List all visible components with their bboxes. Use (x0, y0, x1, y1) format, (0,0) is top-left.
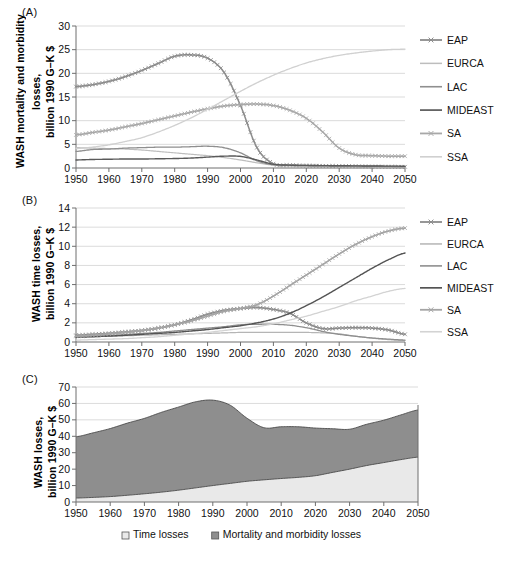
y-tick-label: 20 (58, 463, 70, 475)
y-tick-label: 2 (64, 316, 70, 328)
x-tick-label: 2030 (338, 507, 362, 519)
panel-a: (A) WASH mortality and morbidity losses,… (0, 0, 513, 190)
x-tick-label: 2050 (393, 347, 417, 359)
x-tick-label: 1990 (201, 507, 225, 519)
x-tick-label: 1980 (167, 507, 191, 519)
x-tick-label: 1980 (163, 173, 187, 185)
x-tick-label: 2040 (360, 347, 384, 359)
legend-item-ssa[interactable]: SSA (420, 151, 468, 163)
x-tick-label: 1950 (64, 173, 88, 185)
y-tick-label: 0 (64, 162, 70, 174)
x-tick-label: 2000 (229, 173, 253, 185)
x-tick-label: 1960 (99, 507, 123, 519)
y-tick-label: 5 (64, 138, 70, 150)
legend-label: MIDEAST (447, 104, 494, 116)
x-tick-label: 2020 (304, 507, 328, 519)
legend-item-ssa[interactable]: SSA (420, 326, 468, 338)
y-tick-label: 15 (58, 91, 70, 103)
series-line-eap (76, 308, 405, 336)
legend-label: EURCA (447, 238, 484, 250)
x-tick-label: 1970 (130, 347, 154, 359)
legend-item-lac[interactable]: LAC (420, 81, 468, 93)
legend-label: SSA (447, 326, 468, 338)
marker-x-icon (321, 130, 325, 134)
legend-label: LAC (447, 260, 468, 272)
legend-item-eurca[interactable]: EURCA (420, 238, 484, 250)
x-tick-label: 2020 (295, 173, 319, 185)
marker-x-icon (219, 66, 223, 70)
x-tick-label: 1990 (196, 173, 220, 185)
y-tick-label: 0 (64, 336, 70, 348)
legend-label: EAP (447, 216, 468, 228)
panel-b: (B) WASH time losses, billion 1990 G–K $… (0, 190, 513, 365)
legend: EAPEURCALACMIDEASTSASSA (420, 34, 494, 163)
y-tick-label: 14 (58, 202, 70, 214)
panel-b-plot: 0246810121419501960197019801990200020102… (0, 190, 513, 365)
plot-area: 0102030405060701950196019701980199020002… (58, 381, 430, 519)
x-tick-label: 2050 (406, 507, 430, 519)
y-tick-label: 10 (58, 479, 70, 491)
x-tick-label: 2020 (295, 347, 319, 359)
legend-label: MIDEAST (447, 282, 494, 294)
x-tick-label: 2010 (270, 507, 294, 519)
series-line-eurca (76, 148, 405, 167)
y-tick-label: 60 (58, 397, 70, 409)
legend-label: LAC (447, 81, 468, 93)
series-markers-eap (74, 53, 407, 169)
y-tick-label: 40 (58, 430, 70, 442)
legend-item-mideast[interactable]: MIDEAST (420, 104, 494, 116)
series-markers-sa (74, 226, 407, 338)
legend-item-eap[interactable]: EAP (420, 216, 468, 228)
y-tick-label: 30 (58, 446, 70, 458)
marker-x-icon (331, 140, 335, 144)
legend-item-mideast[interactable]: MIDEAST (420, 282, 494, 294)
legend-item-sa[interactable]: SA (420, 304, 461, 316)
legend-item-eap[interactable]: EAP (420, 34, 468, 46)
plot-area: 0246810121419501960197019801990200020102… (58, 202, 417, 359)
series-line-mideast (76, 156, 405, 166)
y-tick-label: 10 (58, 114, 70, 126)
x-tick-label: 1970 (130, 173, 154, 185)
y-tick-label: 30 (58, 20, 70, 32)
y-tick-label: 70 (58, 381, 70, 393)
y-tick-label: 8 (64, 259, 70, 271)
y-tick-label: 4 (64, 297, 70, 309)
x-tick-label: 1960 (97, 173, 121, 185)
marker-x-icon (337, 146, 341, 150)
x-tick-label: 2000 (229, 347, 253, 359)
x-tick-label: 1950 (64, 347, 88, 359)
legend-item-sa[interactable]: SA (420, 127, 461, 139)
y-tick-label: 10 (58, 240, 70, 252)
x-tick-label: 1950 (64, 507, 88, 519)
legend-label: EURCA (447, 57, 484, 69)
x-tick-label: 2000 (235, 507, 259, 519)
legend-label: SA (447, 304, 461, 316)
legend-item-mortality-and-morbidity-losses[interactable]: Mortality and morbidity losses (212, 528, 361, 540)
legend-label: Time losses (133, 528, 189, 540)
legend-label: SSA (447, 151, 468, 163)
y-tick-label: 50 (58, 413, 70, 425)
x-tick-label: 1970 (133, 507, 157, 519)
legend-item-eurca[interactable]: EURCA (420, 57, 484, 69)
x-tick-label: 1990 (196, 347, 220, 359)
panel-c: (C) WASH losses, billion 1990 G–K $ 0102… (0, 365, 513, 561)
legend-swatch-box (212, 532, 219, 539)
legend: EAPEURCALACMIDEASTSASSA (420, 216, 494, 338)
panel-c-plot: 0102030405060701950196019701980199020002… (0, 365, 513, 561)
plot-area: 0510152025301950196019701980199020002010… (58, 20, 417, 185)
legend-item-time-losses[interactable]: Time losses (122, 528, 189, 540)
y-tick-label: 0 (64, 496, 70, 508)
y-tick-label: 20 (58, 67, 70, 79)
x-tick-label: 1960 (97, 347, 121, 359)
marker-x-icon (212, 60, 216, 64)
x-tick-label: 2010 (262, 347, 286, 359)
panel-a-plot: 0510152025301950196019701980199020002010… (0, 0, 513, 190)
y-tick-label: 6 (64, 278, 70, 290)
x-tick-label: 2030 (328, 173, 352, 185)
x-tick-label: 2030 (328, 347, 352, 359)
legend-item-lac[interactable]: LAC (420, 260, 468, 272)
y-tick-label: 12 (58, 221, 70, 233)
y-tick-label: 25 (58, 43, 70, 55)
legend-swatch-box (122, 532, 129, 539)
series-markers-sa (74, 102, 407, 158)
